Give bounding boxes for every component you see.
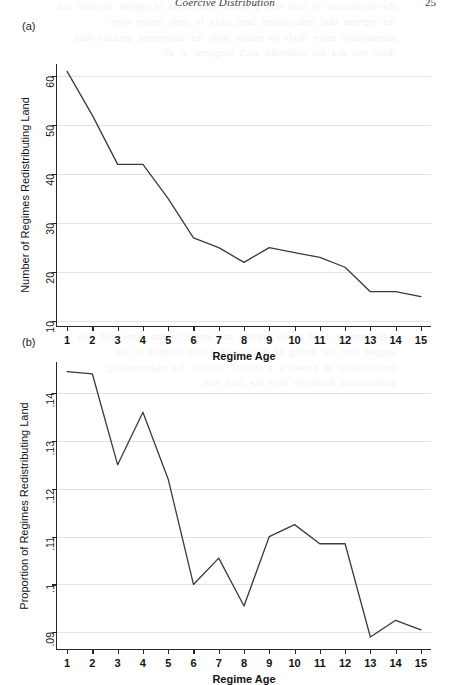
x-tick-label: 14 xyxy=(389,657,401,669)
x-tick-mark xyxy=(320,649,321,654)
x-tick-mark xyxy=(143,326,144,331)
x-tick-mark xyxy=(67,649,68,654)
y-tick-label: .14 xyxy=(44,393,56,408)
x-tick-mark xyxy=(168,649,169,654)
x-tick-label: 12 xyxy=(339,657,351,669)
chart-panel-b: (b) .09.1.11.12.13.141234567891011121314… xyxy=(0,336,450,656)
running-head-title: Coercive Distribution xyxy=(0,0,450,8)
x-tick-mark xyxy=(168,326,169,331)
y-tick-label: .12 xyxy=(44,489,56,504)
x-tick-label: 6 xyxy=(190,657,196,669)
x-axis-title: Regime Age xyxy=(57,673,431,685)
x-tick-mark xyxy=(345,649,346,654)
x-tick-mark xyxy=(370,326,371,331)
y-tick-label: .13 xyxy=(44,441,56,456)
x-tick-mark xyxy=(219,326,220,331)
x-tick-mark xyxy=(396,649,397,654)
x-tick-mark xyxy=(396,326,397,331)
x-tick-mark xyxy=(92,649,93,654)
y-tick-label: 40 xyxy=(44,174,56,186)
x-tick-label: 9 xyxy=(266,657,272,669)
y-tick-label: 20 xyxy=(44,272,56,284)
x-tick-mark xyxy=(345,326,346,331)
x-tick-mark xyxy=(92,326,93,331)
x-tick-mark xyxy=(320,326,321,331)
x-tick-mark xyxy=(295,326,296,331)
panel-label-a: (a) xyxy=(22,20,35,32)
y-tick-label: 50 xyxy=(44,125,56,137)
y-axis-title: Number of Regimes Redistributing Land xyxy=(19,97,31,293)
x-tick-mark xyxy=(370,649,371,654)
x-tick-mark xyxy=(67,326,68,331)
y-tick-label: 10 xyxy=(44,321,56,333)
x-tick-mark xyxy=(118,649,119,654)
x-tick-label: 13 xyxy=(364,657,376,669)
plot-area-b: .09.1.11.12.13.14123456789101112131415Re… xyxy=(56,362,431,650)
x-tick-mark xyxy=(269,649,270,654)
x-tick-label: 1 xyxy=(64,657,70,669)
x-tick-mark xyxy=(219,649,220,654)
x-tick-label: 10 xyxy=(288,657,300,669)
chart-panel-a: (a) 102030405060123456789101112131415Reg… xyxy=(0,20,450,332)
y-axis-title: Proportion of Regimes Redistributing Lan… xyxy=(17,402,29,609)
panel-label-b: (b) xyxy=(22,336,35,348)
plot-area-a: 102030405060123456789101112131415Regime … xyxy=(56,64,431,327)
x-tick-mark xyxy=(244,326,245,331)
x-tick-mark xyxy=(193,326,194,331)
x-tick-label: 8 xyxy=(241,657,247,669)
y-tick-label: 60 xyxy=(44,76,56,88)
y-tick-label: .11 xyxy=(44,537,56,551)
x-tick-label: 3 xyxy=(115,657,121,669)
data-series-line xyxy=(57,362,431,649)
x-tick-label: 7 xyxy=(216,657,222,669)
y-tick-label: 30 xyxy=(44,223,56,235)
data-series-line xyxy=(57,64,431,326)
y-tick-label: .1 xyxy=(44,584,56,593)
x-tick-mark xyxy=(118,326,119,331)
x-tick-mark xyxy=(143,649,144,654)
x-tick-label: 15 xyxy=(415,657,427,669)
x-tick-label: 11 xyxy=(314,657,326,669)
x-tick-mark xyxy=(421,649,422,654)
x-tick-label: 2 xyxy=(89,657,95,669)
running-head: Coercive Distribution 25 xyxy=(0,0,450,10)
x-tick-mark xyxy=(421,326,422,331)
x-tick-label: 5 xyxy=(165,657,171,669)
x-tick-mark xyxy=(269,326,270,331)
x-tick-mark xyxy=(295,649,296,654)
x-tick-label: 4 xyxy=(140,657,146,669)
y-tick-label: .09 xyxy=(44,632,56,647)
page-number: 25 xyxy=(425,0,436,8)
x-tick-mark xyxy=(244,649,245,654)
x-tick-mark xyxy=(193,649,194,654)
